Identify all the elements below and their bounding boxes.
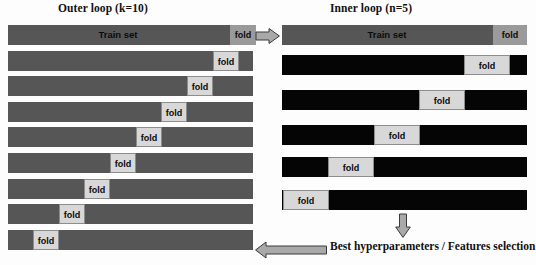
inner-loop-row-1: fold bbox=[282, 55, 527, 75]
fold-block: fold bbox=[33, 230, 59, 250]
fold-block: fold bbox=[328, 157, 374, 177]
arrow-outer-to-inner-icon bbox=[256, 28, 280, 44]
inner-loop-title: Inner loop (n=5) bbox=[330, 2, 412, 14]
fold-block: fold bbox=[110, 153, 136, 173]
outer-loop-row-7: fold bbox=[8, 179, 253, 199]
outer-loop-row-1: Train setfold bbox=[8, 25, 253, 45]
fold-block: fold bbox=[136, 127, 162, 147]
inner-loop-row-2: fold bbox=[282, 90, 527, 110]
arrow-inner-to-result-icon bbox=[395, 214, 411, 238]
fold-block: fold bbox=[59, 204, 85, 224]
outer-loop-row-8: fold bbox=[8, 204, 253, 224]
fold-block: fold bbox=[419, 90, 465, 110]
train-bar-gray bbox=[8, 204, 253, 224]
inner-loop-row-0: Train setfold bbox=[282, 25, 527, 45]
fold-block: fold bbox=[230, 25, 256, 45]
train-bar-gray bbox=[8, 127, 253, 147]
outer-loop-row-9: fold bbox=[8, 230, 253, 250]
result-caption: Best hyperparameters / Features selectio… bbox=[330, 240, 535, 252]
fold-block: fold bbox=[161, 102, 187, 122]
outer-loop-row-2: fold bbox=[8, 51, 253, 71]
inner-loop-row-5: fold bbox=[282, 190, 527, 210]
outer-loop-row-6: fold bbox=[8, 153, 253, 173]
train-bar-black bbox=[282, 90, 527, 110]
outer-loop-row-5: fold bbox=[8, 127, 253, 147]
fold-block: fold bbox=[84, 179, 110, 199]
train-bar-gray bbox=[8, 76, 253, 96]
train-bar-black bbox=[282, 157, 527, 177]
arrow-result-to-outer-icon bbox=[255, 241, 327, 259]
train-bar-gray bbox=[8, 102, 253, 122]
train-bar-gray bbox=[8, 179, 253, 199]
fold-block: fold bbox=[493, 25, 527, 45]
fold-block: fold bbox=[187, 76, 213, 96]
fold-block: fold bbox=[283, 190, 329, 210]
fold-block: fold bbox=[464, 55, 510, 75]
inner-loop-row-4: fold bbox=[282, 157, 527, 177]
inner-loop-row-3: fold bbox=[282, 125, 527, 145]
train-set-label: Train set bbox=[357, 25, 417, 45]
outer-loop-row-4: fold bbox=[8, 102, 253, 122]
outer-loop-row-3: fold bbox=[8, 76, 253, 96]
train-set-label: Train set bbox=[88, 25, 148, 45]
diagram-canvas: Outer loop (k=10) Inner loop (n=5) Train… bbox=[0, 0, 536, 265]
fold-block: fold bbox=[374, 125, 420, 145]
outer-loop-title: Outer loop (k=10) bbox=[58, 2, 148, 14]
fold-block: fold bbox=[213, 51, 239, 71]
